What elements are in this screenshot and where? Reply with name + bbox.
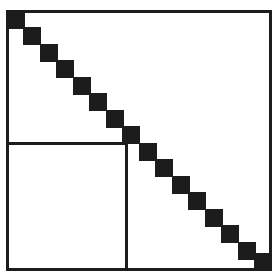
diagonal-block bbox=[23, 27, 41, 45]
diagonal-block bbox=[56, 60, 74, 78]
diagonal-block bbox=[89, 93, 107, 111]
diagonal-block bbox=[188, 192, 206, 210]
diagonal-block bbox=[155, 159, 173, 177]
lower-left-partition-outline bbox=[6, 142, 128, 271]
diagonal-block bbox=[221, 225, 239, 243]
diagonal-block bbox=[254, 253, 272, 271]
matrix-sparsity-figure bbox=[0, 0, 277, 275]
